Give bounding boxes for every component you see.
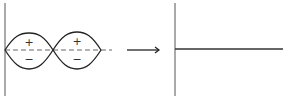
right-panel: [175, 3, 283, 96]
lobe-1-plus-sign: +: [24, 36, 33, 49]
lobe-1-minus-sign: −: [24, 53, 33, 66]
lobe-2-plus-sign: +: [72, 35, 81, 48]
standing-wave-diagram: + − + −: [0, 0, 283, 100]
right-arrow-icon: [127, 47, 159, 53]
left-panel: + − + −: [5, 3, 112, 96]
lobe-2-minus-sign: −: [72, 53, 81, 66]
